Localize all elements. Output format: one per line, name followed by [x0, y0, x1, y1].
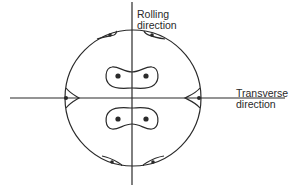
pole-dot-lower-right: [143, 116, 148, 121]
top-right-contour: [144, 31, 165, 39]
pole-dot-top-right: [150, 33, 154, 37]
pole-dot-upper-right: [143, 73, 148, 78]
pole-dot-upper-left: [115, 73, 120, 78]
rolling-label-line-2: direction: [137, 20, 177, 31]
pole-dot-top-left: [108, 33, 112, 37]
pole-dot-left-edge: [64, 96, 68, 100]
pole-dot-lower-left: [115, 116, 120, 121]
pole-dot-bottom-right: [151, 160, 155, 164]
transverse-label-line-2: direction: [236, 99, 288, 110]
pole-figure-diagram: Rolling direction Transverse direction: [0, 0, 290, 195]
transverse-direction-label: Transverse direction: [236, 88, 288, 110]
rolling-direction-label: Rolling direction: [137, 9, 177, 31]
pole-dot-right-edge: [197, 96, 201, 100]
pole-dot-bottom-left: [110, 160, 114, 164]
